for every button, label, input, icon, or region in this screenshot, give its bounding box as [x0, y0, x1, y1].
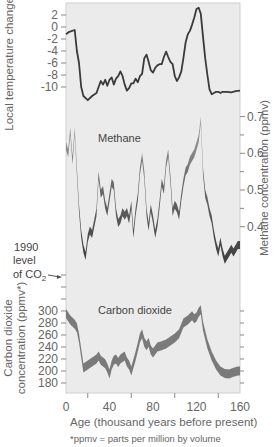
- methane-label: Methane: [98, 132, 141, 144]
- co2-1990-label-line3: of CO2: [13, 268, 47, 283]
- x-tick-label: 40: [103, 400, 117, 414]
- x-tick-label: 0: [63, 400, 70, 414]
- x-axis-title: Age (thousand years before present): [70, 416, 257, 428]
- footnote: *ppmv = parts per million by volume: [70, 433, 221, 444]
- plot-area: [66, 3, 240, 393]
- co2-1990-label-line1: 1990: [14, 241, 38, 253]
- temp-tick-label: -10: [41, 80, 59, 94]
- x-tick-label: 160: [230, 400, 250, 414]
- ice-core-chart: 20-2-4-6-8-100.70.60.50.4300280260240220…: [0, 0, 275, 447]
- methane-axis-title: Methane concentration (ppmv): [258, 100, 270, 256]
- co2-axis-title-line1: Carbon dioxide: [2, 299, 14, 376]
- arrow-icon: [48, 275, 62, 279]
- x-tick-label: 120: [186, 400, 206, 414]
- co2-1990-label-line2: level: [13, 254, 36, 266]
- co2-label: Carbon dioxide: [98, 304, 172, 316]
- co2-axis-title-line2: concentration (ppmv*): [15, 282, 27, 395]
- co2-tick-label: 180: [38, 376, 58, 390]
- temp-axis-title: Local temperature change (°C): [3, 0, 15, 131]
- x-tick-label: 80: [146, 400, 160, 414]
